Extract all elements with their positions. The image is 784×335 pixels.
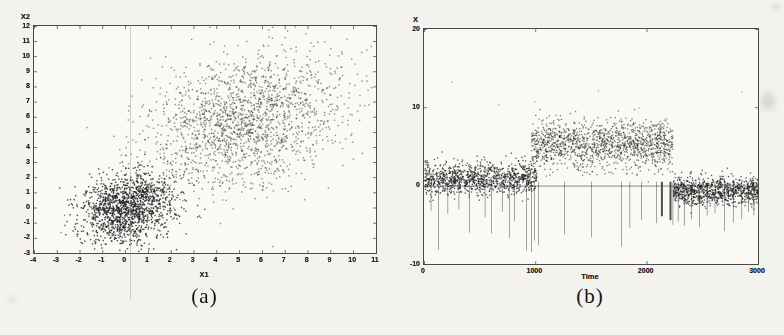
plot-a-x-tick-label: 11 xyxy=(361,256,389,264)
plot-b-y-tick-label: 10 xyxy=(401,103,420,111)
plot-a-y-tick-label: 11 xyxy=(11,37,30,45)
plot-b-x-axis-label: Time xyxy=(570,273,610,281)
plot-a-y-tick-label: 9 xyxy=(11,67,30,75)
scan-smudge xyxy=(6,295,18,304)
plot-a-y-tick-label: 3 xyxy=(11,158,30,166)
subfigure-caption-a: (a) xyxy=(33,284,376,309)
plot-b-x-tick-label: 2000 xyxy=(632,267,660,275)
scan-smudge xyxy=(757,88,779,114)
plot-a-scatter-canvas xyxy=(34,26,376,253)
plot-b-area xyxy=(423,28,759,265)
plot-a-y-tick-label: -1 xyxy=(11,218,30,226)
plot-a-y-tick-label: -2 xyxy=(11,233,30,241)
plot-b-x-tick-label: 1000 xyxy=(520,267,548,275)
plot-a-y-tick-label: 4 xyxy=(11,143,30,151)
plot-a-y-tick-label: 7 xyxy=(11,97,30,105)
plot-b-scatter-canvas xyxy=(424,29,758,264)
plot-b-y-axis-label: X xyxy=(400,16,418,24)
scan-smudge xyxy=(770,2,782,12)
subfigure-caption-b: (b) xyxy=(423,284,757,309)
plot-a-y-tick-label: 8 xyxy=(11,82,30,90)
plot-a-area xyxy=(33,25,377,254)
plot-a-y-tick-label: 5 xyxy=(11,127,30,135)
plot-b-y-tick-label: 20 xyxy=(401,25,420,33)
scanned-figure-page: X2 -3-2-10123456789101112 -4-3-2-1012345… xyxy=(0,0,784,335)
plot-a-y-axis-label: X2 xyxy=(12,13,30,21)
scan-artifact-line xyxy=(130,25,131,300)
plot-b-x-tick-label: 0 xyxy=(409,267,437,275)
plot-a-y-tick-label: 0 xyxy=(11,203,30,211)
plot-b-x-tick-label: 3000 xyxy=(743,267,771,275)
plot-a-x-axis-label: X1 xyxy=(189,271,219,279)
plot-a-y-tick-label: 1 xyxy=(11,188,30,196)
plot-a-y-tick-label: 12 xyxy=(11,22,30,30)
plot-a-y-tick-label: 6 xyxy=(11,112,30,120)
plot-a-y-tick-label: 10 xyxy=(11,52,30,60)
plot-b-y-tick-label: 0 xyxy=(401,181,420,189)
plot-a-y-tick-label: 2 xyxy=(11,173,30,181)
